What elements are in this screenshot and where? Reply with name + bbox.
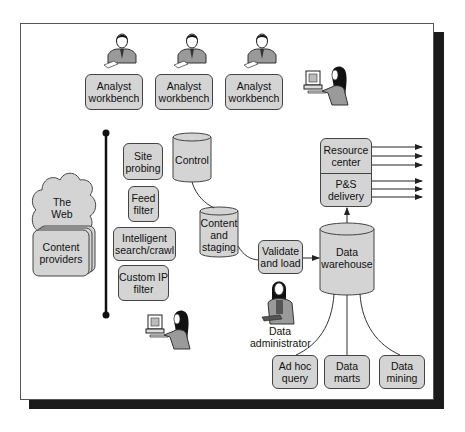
resource-center-line2: center — [331, 156, 360, 168]
content-providers-label: Content providers — [33, 230, 89, 276]
validate-and-load-box[interactable]: Validate and load — [258, 240, 303, 274]
validate-line1: Validate — [262, 245, 299, 257]
data-administrator-label: Data administrator — [250, 325, 310, 349]
analyst-workbench-line1: Analyst — [167, 80, 201, 92]
ps-delivery-line2: delivery — [328, 190, 364, 202]
resource-center-line1: Resource — [324, 144, 369, 156]
analyst-workbench-box[interactable]: Analyst workbench — [85, 74, 143, 110]
custom-ip-filter-line1: Custom IP — [119, 271, 168, 283]
analyst-workbench-box[interactable]: Analyst workbench — [225, 74, 283, 110]
site-probing-box[interactable]: Site probing — [123, 143, 163, 180]
delivery-box[interactable]: Resource center P&S delivery — [320, 138, 372, 207]
custom-ip-filter-box[interactable]: Custom IP filter — [118, 265, 169, 301]
content-providers-line1: Content — [43, 241, 80, 253]
control-label: Control — [173, 142, 211, 178]
analyst-workbench-box[interactable]: Analyst workbench — [155, 74, 213, 110]
control-to-staging-connector — [192, 182, 214, 208]
computer-user-icon — [304, 67, 348, 105]
feed-filter-line1: Feed — [132, 192, 156, 204]
staging-line2: and — [210, 229, 228, 241]
warehouse-line2: warehouse — [321, 258, 372, 270]
ps-delivery-section[interactable]: P&S delivery — [321, 174, 371, 206]
web-cloud-line2: Web — [51, 208, 72, 220]
analyst-workbench-line1: Analyst — [97, 80, 131, 92]
ad-hoc-query-box[interactable]: Ad hoc query — [272, 355, 318, 389]
data-marts-line1: Data — [336, 360, 358, 372]
intelligent-search-line2: search/crawl — [115, 244, 174, 256]
resource-center-section[interactable]: Resource center — [321, 139, 371, 174]
analyst-workbench-line2: workbench — [229, 92, 280, 104]
web-cloud-line1: The — [53, 196, 71, 208]
intelligent-search-line1: Intelligent — [122, 232, 167, 244]
intelligent-search-crawl-box[interactable]: Intelligent search/crawl — [113, 227, 176, 261]
staging-to-validate-connector — [238, 246, 258, 260]
site-probing-line1: Site — [134, 150, 152, 162]
data-mining-line2: mining — [387, 372, 418, 384]
content-providers-line2: providers — [39, 253, 82, 265]
staging-line3: staging — [202, 241, 236, 253]
warehouse-label: Data warehouse — [320, 240, 374, 276]
site-probing-line2: probing — [125, 162, 160, 174]
analyst-workbench-line1: Analyst — [237, 80, 271, 92]
web-cloud-label: The Web — [38, 192, 86, 224]
bus-line — [103, 130, 110, 319]
data-mining-line1: Data — [391, 360, 413, 372]
delivery-outbound-arrows — [372, 147, 422, 197]
administrator-line1: Data — [250, 325, 310, 337]
staging-line1: Content — [201, 217, 238, 229]
analyst-workbench-line2: workbench — [89, 92, 140, 104]
ad-hoc-line1: Ad hoc — [279, 360, 312, 372]
control-text: Control — [175, 154, 209, 166]
feed-filter-box[interactable]: Feed filter — [128, 186, 159, 222]
data-mining-box[interactable]: Data mining — [379, 355, 425, 389]
analyst-person-icon — [244, 34, 276, 68]
analyst-workbench-line2: workbench — [159, 92, 210, 104]
warehouse-line1: Data — [336, 246, 358, 258]
analyst-person-icon — [104, 34, 136, 68]
administrator-line2: administrator — [250, 337, 310, 349]
data-marts-line2: marts — [334, 372, 360, 384]
staging-label: Content and staging — [198, 215, 240, 255]
validate-line2: and load — [260, 257, 300, 269]
warehouse-to-mining-connector — [360, 294, 400, 355]
analyst-person-icon — [174, 34, 206, 68]
ad-hoc-line2: query — [282, 372, 308, 384]
data-marts-box[interactable]: Data marts — [324, 355, 370, 389]
feed-filter-line2: filter — [134, 204, 154, 216]
custom-ip-filter-line2: filter — [134, 283, 154, 295]
computer-user-icon — [146, 311, 190, 349]
data-administrator-person-icon — [262, 282, 294, 325]
ps-delivery-line1: P&S — [335, 178, 356, 190]
